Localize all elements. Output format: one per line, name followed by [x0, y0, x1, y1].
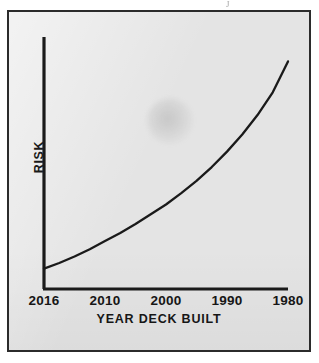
x-axis-title: YEAR DECK BUILT: [9, 312, 309, 326]
x-axis-tick-labels: 20162010200019901980: [9, 293, 309, 311]
risk-curve: [44, 61, 288, 268]
x-tick-label: 2000: [136, 293, 196, 308]
chart-figure-frame: RISK 20162010200019901980 YEAR DECK BUIL…: [7, 10, 311, 352]
x-tick-label: 1980: [258, 293, 311, 308]
x-tick-label: 2016: [14, 293, 74, 308]
x-tick-label: 1990: [197, 293, 257, 308]
y-axis-title: RISK: [32, 122, 46, 192]
scan-artifact-glyph: J: [226, 1, 233, 7]
x-tick-label: 2010: [75, 293, 135, 308]
scan-page: J RISK 20162010200019901980 YEAR DECK BU…: [0, 0, 319, 363]
